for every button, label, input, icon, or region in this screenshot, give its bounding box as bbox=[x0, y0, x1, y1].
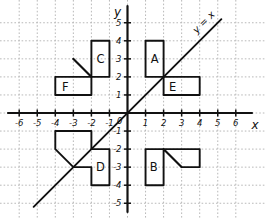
y-tick-label-3: 3 bbox=[116, 54, 121, 64]
y-tick-label-2: 2 bbox=[116, 72, 121, 82]
x-tick-label-neg2: -2 bbox=[87, 118, 95, 128]
y-axis-name: y bbox=[113, 5, 122, 19]
shape-label-f: F bbox=[62, 80, 69, 94]
shape-c-diagonal bbox=[73, 59, 91, 77]
shape-label-e: E bbox=[169, 80, 176, 94]
y-tick-label-neg2: -2 bbox=[113, 144, 121, 154]
x-tick-label-neg5: -5 bbox=[33, 118, 41, 128]
y-tick-label-neg5: -5 bbox=[113, 198, 121, 208]
y-tick-label-5: 5 bbox=[116, 18, 121, 28]
x-tick-label-1: 1 bbox=[143, 118, 148, 128]
shape-label-b: B bbox=[150, 160, 158, 174]
axis-layer bbox=[8, 6, 252, 212]
shape-label-c: C bbox=[96, 52, 104, 66]
x-tick-label-neg6: -6 bbox=[15, 118, 24, 128]
x-tick-label-neg3: -3 bbox=[69, 118, 77, 128]
x-axis-name: x bbox=[250, 118, 259, 132]
x-tick-label-2: 2 bbox=[161, 118, 166, 128]
x-tick-label-neg4: -4 bbox=[51, 118, 59, 128]
coordinate-plane-figure: -6-5-4-3-2-112345654321-1-2-3-4-50 y = x… bbox=[0, 0, 265, 218]
shape-label-a: A bbox=[151, 52, 159, 66]
y-tick-label-neg3: -3 bbox=[113, 162, 121, 172]
shape-b-diagonal bbox=[164, 149, 182, 167]
y-tick-label-neg4: -4 bbox=[113, 180, 121, 190]
shape-label-d: D bbox=[96, 160, 105, 174]
x-tick-label-4: 4 bbox=[197, 118, 202, 128]
y-tick-label-4: 4 bbox=[116, 36, 121, 46]
x-tick-label-6: 6 bbox=[233, 118, 239, 128]
x-tick-label-3: 3 bbox=[179, 118, 184, 128]
graph-svg: -6-5-4-3-2-112345654321-1-2-3-4-50 y = x… bbox=[0, 0, 265, 218]
y-tick-label-1: 1 bbox=[116, 90, 121, 100]
x-tick-label-5: 5 bbox=[215, 118, 220, 128]
